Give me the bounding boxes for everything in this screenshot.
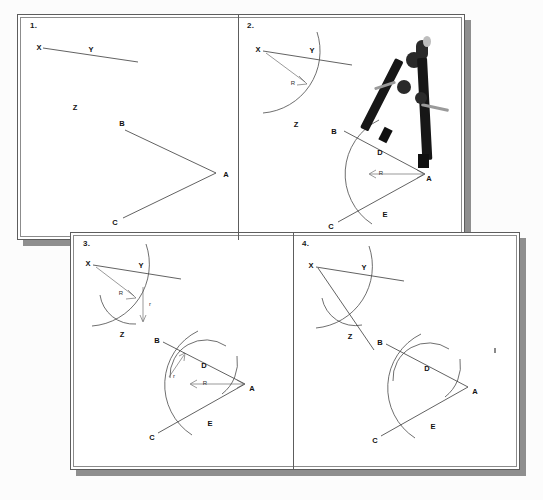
panel-3-label-radius-top: R xyxy=(119,290,123,296)
panel-4-label-y: Y xyxy=(361,263,366,272)
panel-2-label-z: Z xyxy=(294,120,299,129)
panel-3-label-r-top: r xyxy=(149,301,151,307)
panel-3-label-c: C xyxy=(149,433,154,442)
panel-group-bottom: 3. xyxy=(70,232,520,470)
panel-2-label-c: C xyxy=(328,222,333,231)
panel-4-label-d: D xyxy=(424,364,429,373)
panel-1-figure: X Y Z B A C xyxy=(21,14,238,240)
panel-1-label-a: A xyxy=(223,170,228,179)
panel-1-drawing xyxy=(21,14,238,240)
panel-3-label-x: X xyxy=(85,259,90,268)
panel-1[interactable]: 1. X Y Z B A C xyxy=(21,14,238,240)
panel-4-drawing xyxy=(294,232,517,470)
panel-3-label-z: Z xyxy=(120,330,125,339)
compass-needle-tip-icon xyxy=(418,154,429,168)
panel-4-label-e: E xyxy=(430,422,435,431)
panel-2-label-x: X xyxy=(255,45,260,54)
panel-3-label-y: Y xyxy=(138,261,143,270)
panel-group-top: 1. X Y Z B A C 2. xyxy=(17,14,465,240)
panel-4[interactable]: 4. xyxy=(293,232,517,470)
panel-4-label-b: B xyxy=(377,338,382,347)
panel-2-label-e: E xyxy=(382,210,387,219)
panel-3-label-d: D xyxy=(201,361,206,370)
panel-3-label-r-bottom: r xyxy=(173,373,175,379)
panel-4-figure: X Y Z B D A E C xyxy=(294,232,517,470)
panel-1-label-x: X xyxy=(36,43,41,52)
panel-4-label-x: X xyxy=(308,261,313,270)
panel-3-drawing xyxy=(74,232,293,470)
panel-2-figure: X Y Z R B D A R E C xyxy=(239,14,462,240)
panel-1-label-b: B xyxy=(119,119,124,128)
compass-pencil-tip-icon xyxy=(378,127,392,144)
compass-needle-leg xyxy=(417,58,432,160)
compass-knob-icon xyxy=(423,36,431,47)
panel-4-label-c: C xyxy=(372,436,377,445)
compass-joint-mid-icon xyxy=(415,92,427,104)
panel-3[interactable]: 3. xyxy=(74,232,293,470)
panel-3-label-b: B xyxy=(154,336,159,345)
compass-tool xyxy=(377,36,462,186)
panel-3-label-a: A xyxy=(249,384,254,393)
panel-1-label-z: Z xyxy=(73,103,78,112)
panel-4-label-a: A xyxy=(472,387,477,396)
figure-canvas: 1. X Y Z B A C 2. xyxy=(0,0,543,500)
panel-1-label-y: Y xyxy=(88,45,93,54)
panel-2-label-b: B xyxy=(331,127,336,136)
panel-1-label-c: C xyxy=(112,218,117,227)
panel-2-label-radius-top: R xyxy=(291,80,295,86)
panel-3-label-e: E xyxy=(207,419,212,428)
panel-4-label-z: Z xyxy=(348,332,353,341)
compass-joint-left-icon xyxy=(397,80,411,94)
page-speck xyxy=(494,348,496,353)
panel-2-label-y: Y xyxy=(309,46,314,55)
panel-3-figure: X Y Z R r B D A R r E C xyxy=(74,232,293,470)
panel-3-label-radius-bottom: R xyxy=(203,380,207,386)
panel-2[interactable]: 2. xyxy=(238,14,462,240)
